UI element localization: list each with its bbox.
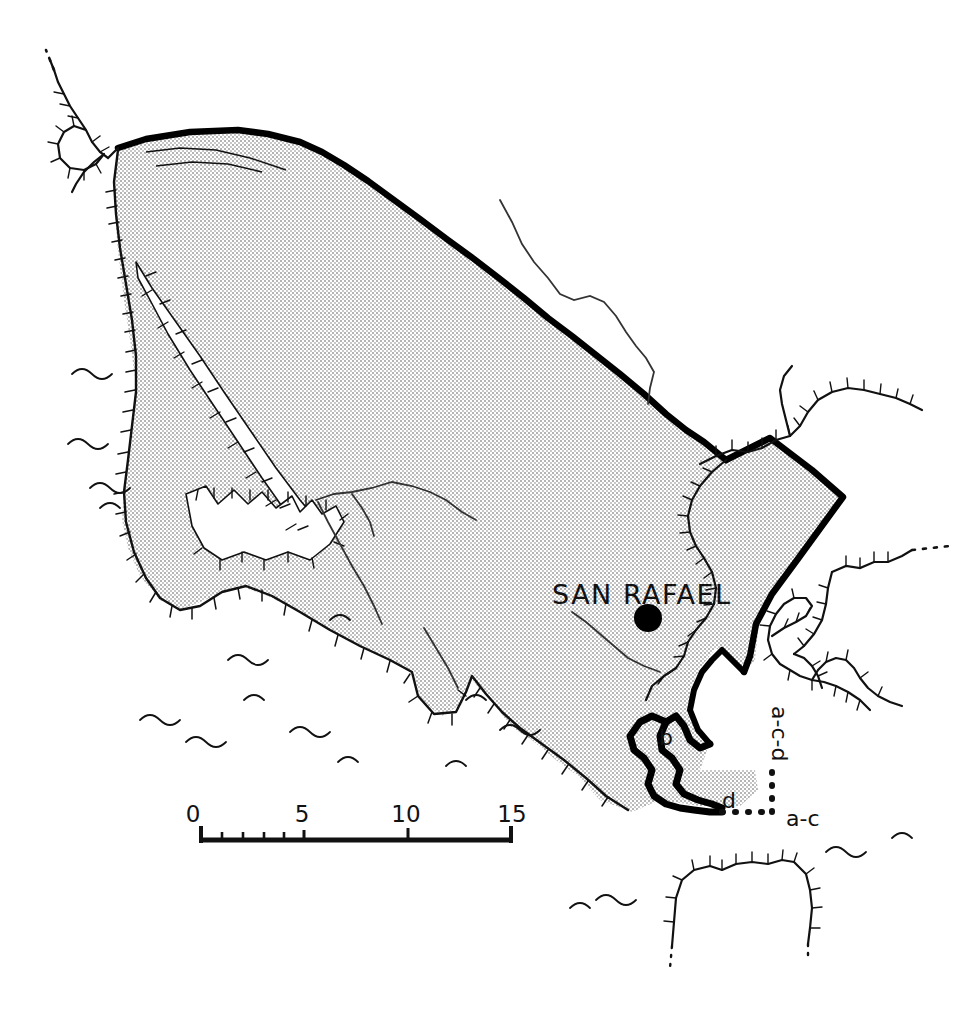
annotation-label-a-c: a-c	[786, 806, 820, 831]
scale-label-0: 0	[186, 801, 201, 827]
map-root: SAN RAFAEL b d a-c-d a-c 0 5 10 15	[0, 0, 976, 1017]
scale-label-5: 5	[295, 801, 310, 827]
scale-label-15: 15	[497, 801, 526, 827]
city-label-san-rafael: SAN RAFAEL	[552, 579, 732, 610]
scale-label-10: 10	[391, 801, 420, 827]
annotation-label-a-c-d: a-c-d	[767, 706, 792, 761]
annotation-label-b: b	[659, 725, 673, 750]
map-canvas: SAN RAFAEL b d a-c-d a-c 0 5 10 15	[0, 0, 976, 1017]
annotation-label-d: d	[722, 788, 736, 813]
